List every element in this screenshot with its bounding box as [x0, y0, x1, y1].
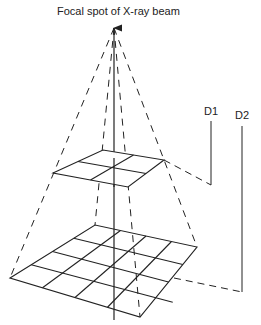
upper-grid	[53, 150, 164, 187]
lower-grid	[10, 225, 197, 317]
beam-diagram	[0, 0, 261, 325]
distance-leaders	[164, 160, 242, 292]
